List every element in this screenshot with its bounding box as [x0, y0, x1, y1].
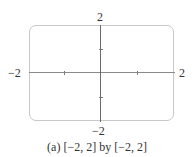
x-axis — [29, 72, 175, 73]
figure-caption: (a) [−2, 2] by [−2, 2] — [0, 141, 194, 153]
x-tick-pos1 — [137, 71, 138, 75]
y-tick-pos1 — [99, 49, 103, 50]
y-max-label: 2 — [97, 11, 103, 23]
x-max-label: 2 — [179, 67, 185, 79]
y-axis — [100, 25, 101, 122]
x-min-label: −2 — [8, 67, 21, 79]
x-tick-neg1 — [64, 71, 65, 75]
screen-frame — [29, 25, 174, 121]
y-min-label: −2 — [92, 125, 105, 137]
y-tick-neg1 — [99, 97, 103, 98]
